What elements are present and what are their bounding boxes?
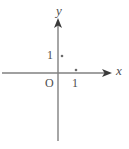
coordinate-axes-figure: y x 1 1 O [0, 0, 129, 149]
x-axis-tick-label-1: 1 [72, 77, 78, 89]
y-axis-tick-label-1: 1 [47, 49, 53, 61]
y-axis-label: y [56, 4, 62, 17]
origin-label: O [45, 77, 54, 89]
axes-drawing [0, 0, 129, 149]
y-axis-unit-tick-dot [61, 55, 64, 58]
x-axis-label: x [116, 64, 122, 77]
x-axis-unit-tick-dot [75, 69, 78, 72]
